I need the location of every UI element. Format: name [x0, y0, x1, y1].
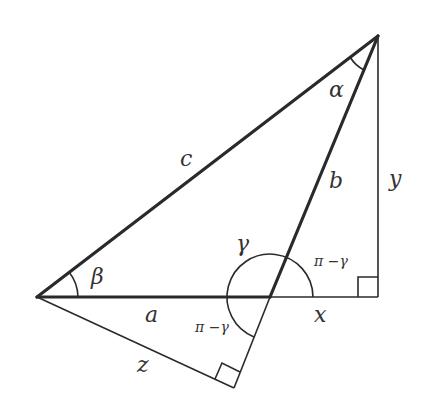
side-z-line	[37, 297, 234, 388]
label-pi-minus-gamma-upper: π −γ	[313, 253, 348, 269]
right-angle-marker-right	[358, 277, 378, 297]
angle-beta-arc	[69, 272, 78, 297]
label-alpha: α	[329, 77, 344, 102]
label-y: y	[388, 166, 402, 191]
label-x: x	[314, 302, 327, 327]
label-z: z	[136, 352, 149, 377]
label-gamma: γ	[236, 231, 250, 256]
angle-alpha-arc	[350, 57, 364, 70]
label-pi-minus-gamma-lower: π −γ	[194, 319, 229, 335]
label-c: c	[180, 146, 192, 171]
b-extension-line	[234, 297, 270, 388]
label-a: a	[145, 302, 158, 327]
label-b: b	[329, 168, 343, 193]
label-beta: β	[90, 264, 104, 289]
right-angle-marker-bottom	[215, 363, 240, 379]
triangle-diagram: c b y α β γ π −γ π −γ a x z	[0, 0, 428, 412]
